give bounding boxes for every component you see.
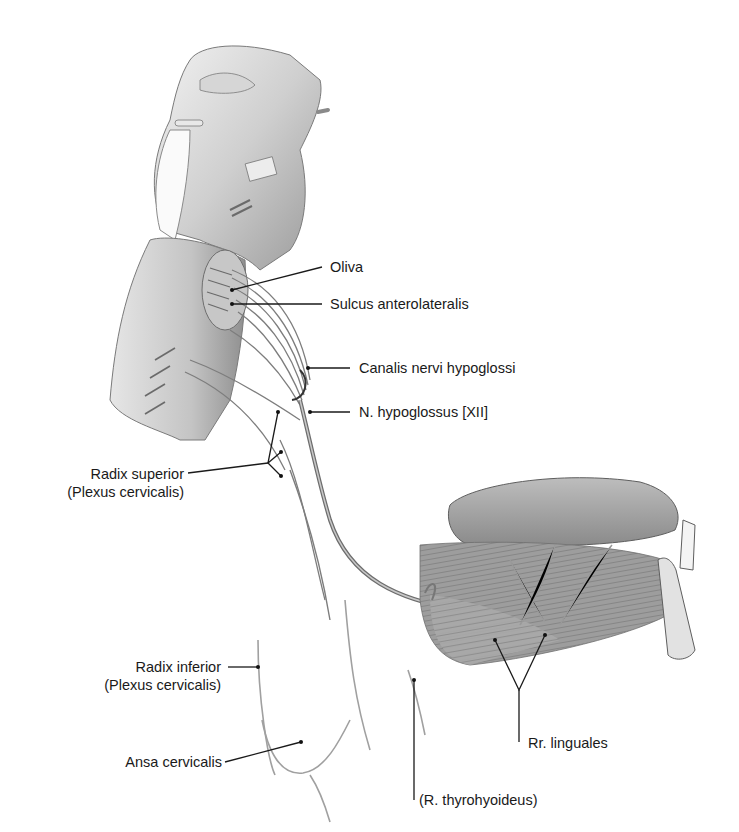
label-rr-linguales: Rr. linguales: [528, 735, 608, 752]
label-sulcus-anterolateralis: Sulcus anterolateralis: [330, 296, 469, 313]
brainstem: [110, 46, 328, 440]
label-radix-superior: Radix superior: [91, 466, 185, 483]
label-r-thyrohyoideus: (R. thyrohyoideus): [419, 792, 537, 809]
label-ansa-cervicalis: Ansa cervicalis: [125, 754, 222, 771]
label-canalis-nervi-hypoglossi: Canalis nervi hypoglossi: [359, 360, 515, 377]
tongue: [420, 478, 695, 665]
label-radix-inferior: Radix inferior: [136, 659, 221, 676]
label-oliva: Oliva: [330, 259, 363, 276]
label-radix-superior-plexus: (Plexus cervicalis): [67, 484, 184, 501]
label-n-hypoglossus: N. hypoglossus [XII]: [359, 404, 488, 421]
label-radix-inferior-plexus: (Plexus cervicalis): [104, 677, 221, 694]
ansa-cervicalis-illustration: [258, 600, 425, 822]
anatomy-figure: Oliva Sulcus anterolateralis Canalis ner…: [0, 0, 739, 832]
